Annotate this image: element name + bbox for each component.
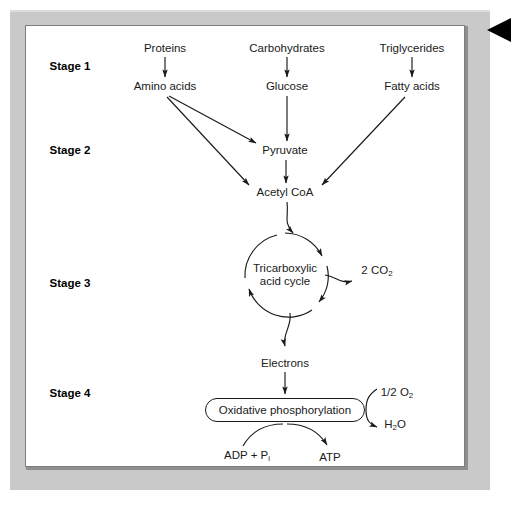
co2-subscript: 2 (388, 269, 392, 278)
node-acetyl-coa: Acetyl CoA (257, 186, 314, 199)
o2-coefficient: 1/2 (381, 386, 400, 398)
stage-label-1: Stage 1 (50, 60, 91, 72)
node-proteins: Proteins (144, 42, 186, 55)
left-pointing-triangle-icon (487, 18, 511, 42)
node-water: H2O (384, 418, 406, 434)
node-glucose: Glucose (266, 80, 308, 93)
node-adp-pi: ADP + Pi (224, 449, 270, 465)
node-triglycerides: Triglycerides (380, 42, 445, 55)
node-oxidative-phosphorylation: Oxidative phosphorylation (219, 404, 351, 416)
stage-label-3: Stage 3 (50, 277, 91, 289)
node-fatty-acids: Fatty acids (384, 80, 440, 93)
o2-subscript: 2 (409, 391, 413, 400)
node-electrons: Electrons (261, 357, 309, 370)
tca-label-line-2: acid cycle (253, 275, 317, 288)
node-tricarboxylic-acid-cycle: Tricarboxylic acid cycle (253, 262, 317, 288)
node-atp: ATP (319, 451, 341, 464)
node-carbon-dioxide: 2 CO2 (361, 264, 392, 280)
co2-formula: CO (371, 264, 388, 276)
node-amino-acids: Amino acids (134, 80, 197, 93)
h2o-suffix: O (397, 418, 406, 430)
node-pyruvate: Pyruvate (262, 144, 307, 157)
co2-coefficient: 2 (361, 264, 371, 276)
o2-formula: O (400, 386, 409, 398)
stage-label-2: Stage 2 (50, 144, 91, 156)
node-oxygen: 1/2 O2 (381, 386, 414, 402)
figure-root: Stage 1 Stage 2 Stage 3 Stage 4 Proteins… (0, 0, 511, 505)
pi-subscript: i (268, 454, 270, 463)
adp-prefix: ADP + P (224, 449, 268, 461)
tca-label-line-1: Tricarboxylic (253, 262, 317, 275)
figure-frame-highlight (10, 10, 490, 12)
node-carbohydrates: Carbohydrates (249, 42, 324, 55)
stage-label-4: Stage 4 (50, 387, 91, 399)
